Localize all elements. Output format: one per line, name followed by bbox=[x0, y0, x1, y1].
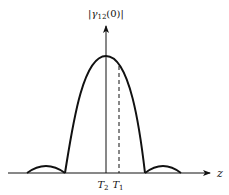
right-side-lobe bbox=[145, 166, 181, 173]
x-axis-label: z bbox=[216, 167, 223, 180]
main-lobe-curve bbox=[65, 56, 145, 173]
y-axis-label: |γ12(0)| bbox=[88, 8, 124, 21]
left-side-lobe bbox=[27, 166, 65, 173]
t1-label: T1 bbox=[112, 179, 123, 192]
coherence-diagram: |γ12(0)| z T2 T1 bbox=[0, 0, 229, 195]
t2-label: T2 bbox=[97, 179, 108, 192]
